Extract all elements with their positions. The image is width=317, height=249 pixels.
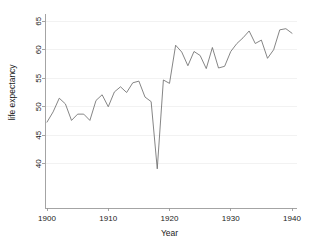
- y-tick-label: 40: [35, 159, 44, 168]
- x-tick-label: 1930: [222, 214, 240, 223]
- line-chart: 404550556065 19001910192019301940 life e…: [0, 0, 317, 249]
- y-tick-label: 55: [35, 73, 44, 82]
- y-tick-label: 45: [35, 130, 44, 139]
- y-tick-label: 65: [35, 16, 44, 25]
- x-axis-title: Year: [161, 228, 178, 238]
- x-tick-label: 1940: [283, 214, 301, 223]
- y-tick-label: 50: [35, 102, 44, 111]
- x-tick-label: 1900: [38, 214, 56, 223]
- x-tick-labels: 19001910192019301940: [38, 214, 301, 223]
- y-tick-labels: 404550556065: [35, 16, 44, 168]
- y-axis-title: life expectancy: [7, 64, 17, 121]
- x-tick-label: 1910: [99, 214, 117, 223]
- x-tick-label: 1920: [161, 214, 179, 223]
- axis-lines: [45, 14, 297, 208]
- chart-container: 404550556065 19001910192019301940 life e…: [0, 0, 317, 249]
- y-tick-label: 60: [35, 45, 44, 54]
- grid-lines: [45, 21, 297, 163]
